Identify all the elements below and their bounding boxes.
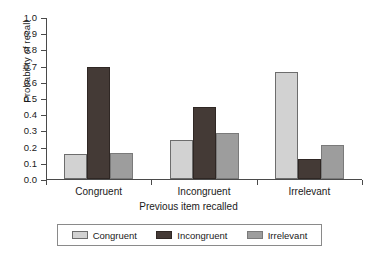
- y-axis-tick: 1.0: [41, 18, 46, 19]
- bar: [170, 140, 193, 179]
- bar-group: [64, 18, 133, 179]
- y-axis-tick: 0.9: [41, 34, 46, 35]
- y-axis-tick: 0.2: [41, 148, 46, 149]
- y-axis-tick: 0.8: [41, 50, 46, 51]
- y-axis-tick-label: 0.7: [24, 61, 37, 72]
- legend-item: Congruent: [72, 230, 137, 241]
- legend-label-congruent: Congruent: [93, 230, 137, 241]
- x-axis-category-label: Incongruent: [178, 186, 231, 197]
- x-axis-category-label: Irrelevant: [288, 186, 330, 197]
- y-axis-tick-label: 0.2: [24, 142, 37, 153]
- x-axis-tick: [46, 180, 47, 185]
- plot-area: 1.00.90.80.70.60.50.40.30.20.10.0: [46, 18, 362, 180]
- legend-swatch-incongruent: [156, 231, 172, 239]
- bar: [298, 159, 321, 178]
- y-axis-tick: 0.4: [41, 115, 46, 116]
- y-axis-tick-label: 0.1: [24, 158, 37, 169]
- bar-group: [170, 18, 239, 179]
- y-axis-tick: 0.5: [41, 99, 46, 100]
- x-axis-tick: [257, 180, 258, 185]
- y-axis-tick-label: 1.0: [24, 12, 37, 23]
- y-axis-tick: 0.3: [41, 131, 46, 132]
- y-axis-tick-label: 0.4: [24, 109, 37, 120]
- legend-item: Incongruent: [156, 230, 227, 241]
- y-axis-tick-label: 0.3: [24, 125, 37, 136]
- bar: [64, 154, 87, 178]
- x-axis-category-label: Congruent: [75, 186, 122, 197]
- legend-item: Irrelevant: [247, 230, 308, 241]
- x-axis-line: [46, 179, 362, 180]
- y-axis-tick: 0.6: [41, 83, 46, 84]
- y-axis-tick-label: 0.5: [24, 93, 37, 104]
- legend-swatch-irrelevant: [247, 231, 263, 239]
- y-axis-tick: 0.1: [41, 164, 46, 165]
- y-axis-line: [46, 18, 47, 180]
- y-axis-tick: 0.7: [41, 67, 46, 68]
- y-axis-tick-label: 0.9: [24, 28, 37, 39]
- x-axis-tick: [151, 180, 152, 185]
- bar: [321, 145, 344, 179]
- legend-label-irrelevant: Irrelevant: [268, 230, 308, 241]
- legend-label-incongruent: Incongruent: [177, 230, 227, 241]
- bar: [216, 133, 239, 178]
- bar: [110, 153, 133, 179]
- x-axis-tick: [362, 180, 363, 185]
- bar: [275, 72, 298, 179]
- chart-legend: Congruent Incongruent Irrelevant: [57, 224, 322, 246]
- bar: [87, 67, 110, 179]
- y-axis-tick-label: 0.6: [24, 77, 37, 88]
- y-axis-tick-label: 0.8: [24, 44, 37, 55]
- bar-chart-figure: Probability of recall 1.00.90.80.70.60.5…: [0, 0, 377, 259]
- y-axis-tick-label: 0.0: [24, 174, 37, 185]
- legend-swatch-congruent: [72, 231, 88, 239]
- bar: [193, 107, 216, 178]
- bar-group: [275, 18, 344, 179]
- x-axis-title: Previous item recalled: [0, 201, 377, 212]
